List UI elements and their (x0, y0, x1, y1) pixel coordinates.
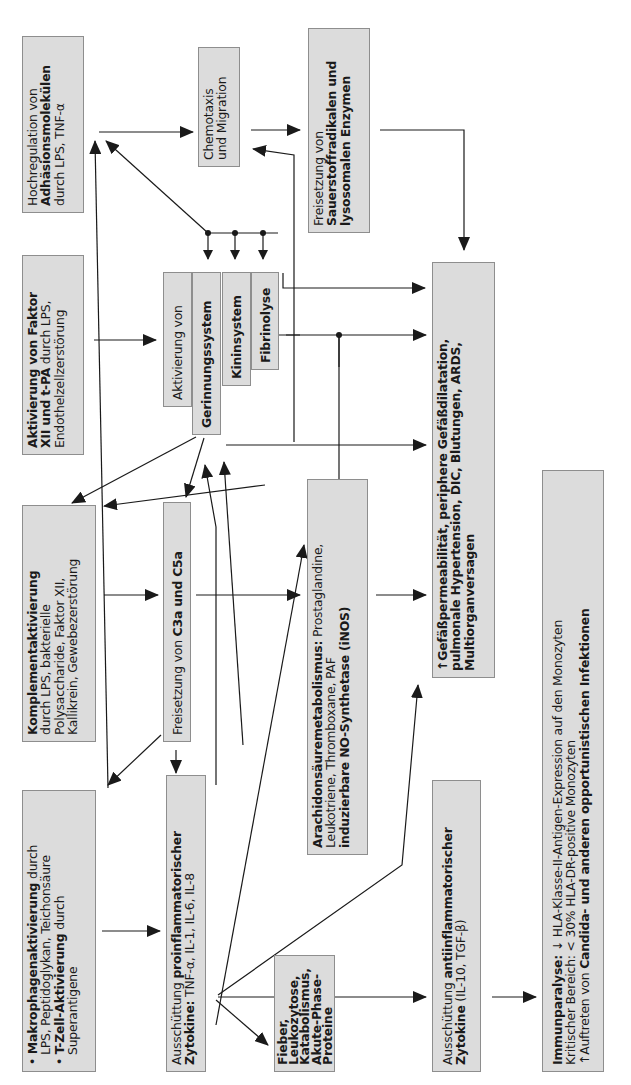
node-text: durch (52, 896, 67, 934)
node-faktor-xii: Aktivierung von Faktor XII und t-PA durc… (22, 255, 84, 455)
node-text-bold: Multiorganversagen (463, 269, 476, 671)
node-text: ↑Auftreten von (577, 969, 592, 1065)
node-text: (IL-10, TGF-β) (453, 920, 468, 1006)
node-text: durch LPS, bakterielle (39, 512, 52, 735)
node-text: Chemotaxis (202, 54, 215, 160)
node-text: Freisetzung von (170, 636, 185, 735)
node-antiinflammatorische-zytokine: Ausschüttung antiinflammatorischer Zytok… (432, 780, 481, 1072)
node-text-bold: Kininsystem (229, 295, 244, 379)
node-text: Aktivierung von (170, 305, 185, 400)
node-hochregulation: Hochregulation von Adhäsionsmolekülen du… (22, 36, 84, 213)
node-text: TNF-α, IL-1, IL-6, IL-8 (182, 873, 197, 1000)
bullet: • (25, 1058, 40, 1065)
sepsis-pathophysiology-diagram: Hochregulation von Adhäsionsmolekülen du… (0, 0, 631, 1085)
node-text-bold: Sauerstoffradikalen und (325, 35, 338, 226)
node-chemotaxis: Chemotaxis und Migration (198, 47, 240, 167)
node-text-bold: induzierbare NO-Synthetase (iNOS) (338, 486, 351, 848)
node-text: Polysaccharide, Faktor XII, (53, 512, 66, 735)
node-text: LPS, Peptidoglykan, Teichonsäure (39, 797, 52, 1065)
node-text: Hochregulation von (26, 43, 39, 206)
node-text-bold: Fibrinolyse (258, 288, 273, 363)
node-makrophagenaktivierung: • Makrophagenaktivierung durch LPS, Pept… (22, 790, 96, 1072)
node-text: Superantigene (66, 797, 79, 1065)
node-gefaesspermeabilitaet: ↑Gefäßpermeabilität, periphere Gefäßdila… (432, 262, 495, 678)
node-text: Freisetzung von (312, 35, 325, 226)
node-fibrinolyse: Fibrinolyse (251, 272, 279, 370)
node-text-bold: Zytokine: (182, 1001, 197, 1065)
node-text-bold: Zytokine (453, 1005, 468, 1065)
node-text-bold: Gerinnungssystem (199, 301, 214, 428)
node-text-bold: Komplementaktivierung (26, 512, 39, 735)
node-gerinnungssystem: Gerinnungssystem (192, 272, 221, 435)
node-text-bold: pulmonale Hypertension, DIC, Blutungen, … (449, 269, 462, 671)
node-komplementaktivierung: Komplementaktivierung durch LPS, bakteri… (22, 505, 96, 742)
node-c3a-c5a: Freisetzung von C3a und C5a (163, 502, 191, 742)
node-text-bold: ↑Gefäßpermeabilität, periphere Gefäßdila… (436, 269, 449, 671)
node-text: und Migration (215, 54, 228, 160)
node-text: Kallikrein, Gewebezerstörung (66, 512, 79, 735)
node-text: Leukotriene, Thromboxane, PAF (324, 486, 337, 848)
bullet: • (52, 1058, 67, 1065)
node-text-bold: C3a und C5a (170, 551, 185, 636)
node-proinflammatorische-zytokine: Ausschüttung proinflammatorischer Zytoki… (166, 775, 206, 1072)
node-aktivierung-von: Aktivierung von (163, 272, 192, 407)
node-text: Kritischer Bereich: < 30% HLA-DR-positiv… (564, 477, 577, 1065)
node-text: Prostaglandine, (310, 544, 325, 641)
node-arachidonsaeure: Arachidonsäuremetabolismus: Prostaglandi… (307, 479, 368, 855)
node-text-bold: lysosomalen Enzymen (339, 35, 352, 226)
node-text-bold: Adhäsionsmolekülen (39, 43, 52, 206)
node-text: Endothelzellzerstörung (53, 262, 66, 448)
node-text-bold: Candida- und anderen opportunistischen I… (577, 608, 592, 969)
node-sauerstoffradikale: Freisetzung von Sauerstoffradikalen und … (308, 28, 370, 233)
node-fieber: Fieber, Leukozytose, Katabolismus, Akute… (274, 955, 335, 1072)
node-text: durch LPS, TNF-α (53, 43, 66, 206)
node-kininsystem: Kininsystem (222, 272, 251, 386)
node-immunparalyse: Immunparalyse: ↓ HLA-Klasse-II-Antigen-E… (542, 470, 604, 1072)
node-text-bold: Aktivierung von Faktor (26, 262, 39, 448)
